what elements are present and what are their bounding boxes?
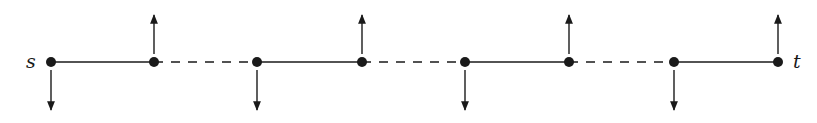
node-n6 — [669, 57, 679, 67]
node-n1 — [149, 57, 159, 67]
node-n4 — [460, 57, 470, 67]
node-n0 — [46, 57, 56, 67]
node-n3 — [357, 57, 367, 67]
node-n5 — [564, 57, 574, 67]
path-diagram: s t — [0, 0, 817, 123]
source-label: s — [26, 50, 36, 72]
node-n2 — [252, 57, 262, 67]
node-n7 — [773, 57, 783, 67]
target-label: t — [793, 50, 801, 72]
